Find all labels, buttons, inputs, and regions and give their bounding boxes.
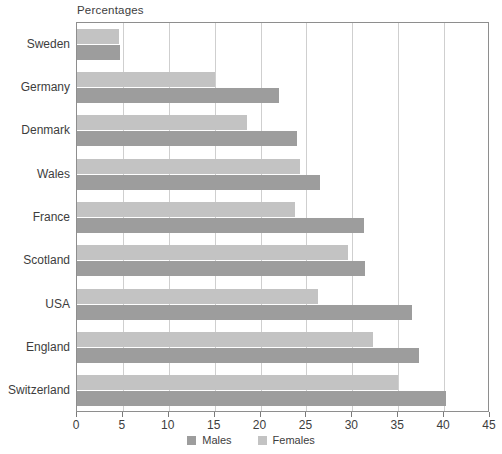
x-axis-tickmark bbox=[443, 412, 444, 417]
bar-chart: Percentages SwedenGermanyDenmarkWalesFra… bbox=[0, 0, 502, 454]
bar-females bbox=[77, 202, 295, 217]
y-axis-label: France bbox=[0, 211, 76, 223]
x-axis-tickmark bbox=[351, 412, 352, 417]
bar-group bbox=[77, 110, 488, 153]
bar-group bbox=[77, 370, 488, 411]
bar-group bbox=[77, 326, 488, 369]
x-axis-tick-label: 45 bbox=[482, 418, 495, 432]
x-axis-tickmark bbox=[489, 412, 490, 417]
bar-males bbox=[77, 305, 412, 320]
bar-females bbox=[77, 29, 119, 44]
y-axis-label: England bbox=[0, 341, 76, 353]
y-axis-label: Scotland bbox=[0, 254, 76, 266]
bar-group bbox=[77, 23, 488, 66]
bar-males bbox=[77, 261, 365, 276]
y-axis-label: Switzerland bbox=[0, 384, 76, 396]
chart-title: Percentages bbox=[77, 4, 144, 16]
legend-swatch-females bbox=[258, 436, 267, 445]
x-axis-tick-label: 5 bbox=[119, 418, 126, 432]
bar-males bbox=[77, 391, 446, 406]
bar-group bbox=[77, 153, 488, 196]
legend-label: Females bbox=[273, 434, 315, 446]
x-axis-tickmark bbox=[122, 412, 123, 417]
bar-group bbox=[77, 283, 488, 326]
x-axis-tickmark bbox=[214, 412, 215, 417]
x-axis-tickmark bbox=[260, 412, 261, 417]
y-axis-label: USA bbox=[0, 298, 76, 310]
y-axis-label: Denmark bbox=[0, 124, 76, 136]
bar-females bbox=[77, 115, 247, 130]
plot-inner bbox=[77, 23, 488, 411]
legend-label: Males bbox=[202, 434, 231, 446]
bar-group bbox=[77, 66, 488, 109]
y-axis-label: Germany bbox=[0, 81, 76, 93]
legend-item: Females bbox=[258, 434, 315, 446]
legend-item: Males bbox=[187, 434, 231, 446]
bar-females bbox=[77, 289, 318, 304]
bar-males bbox=[77, 348, 419, 363]
bar-males bbox=[77, 131, 297, 146]
bar-females bbox=[77, 245, 348, 260]
legend-swatch-males bbox=[187, 436, 196, 445]
x-axis-tick-label: 25 bbox=[299, 418, 312, 432]
x-axis-tick-label: 10 bbox=[161, 418, 174, 432]
bar-group bbox=[77, 196, 488, 239]
y-axis-label: Wales bbox=[0, 168, 76, 180]
chart-legend: MalesFemales bbox=[0, 434, 502, 446]
bar-females bbox=[77, 159, 300, 174]
x-axis-tick-label: 20 bbox=[253, 418, 266, 432]
y-axis-label: Sweden bbox=[0, 38, 76, 50]
x-axis-tickmark bbox=[168, 412, 169, 417]
y-axis-category-labels: SwedenGermanyDenmarkWalesFranceScotlandU… bbox=[0, 22, 70, 412]
bar-females bbox=[77, 332, 373, 347]
x-axis-tickmark bbox=[397, 412, 398, 417]
x-axis-tick-label: 40 bbox=[436, 418, 449, 432]
x-axis-tick-label: 15 bbox=[207, 418, 220, 432]
bar-males bbox=[77, 175, 320, 190]
x-axis-tick-label: 30 bbox=[345, 418, 358, 432]
bar-males bbox=[77, 218, 364, 233]
x-axis-tickmark bbox=[305, 412, 306, 417]
x-axis-tick-label: 0 bbox=[73, 418, 80, 432]
bar-females bbox=[77, 375, 398, 390]
bar-males bbox=[77, 88, 279, 103]
x-axis-tick-label: 35 bbox=[391, 418, 404, 432]
plot-area bbox=[76, 22, 489, 412]
bar-females bbox=[77, 72, 215, 87]
bar-males bbox=[77, 45, 120, 60]
bar-group bbox=[77, 240, 488, 283]
x-axis-tickmark bbox=[76, 412, 77, 417]
